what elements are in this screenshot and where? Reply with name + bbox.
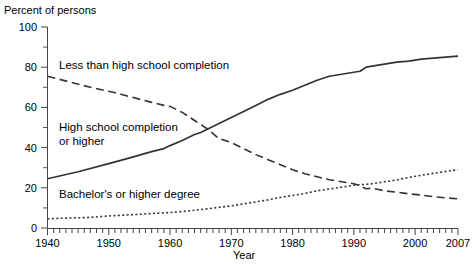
- education-attainment-line-chart: Percent of persons 020406080100 19401950…: [0, 0, 474, 265]
- x-axis-title: Year: [233, 249, 255, 262]
- x-tick-label: 2000: [403, 237, 427, 249]
- series-label-bachelors-or-higher: Bachelor's or higher degree: [59, 187, 200, 201]
- y-tick-label: 20: [25, 182, 37, 194]
- x-tick-label: 1950: [97, 237, 121, 249]
- x-tick-label: 1970: [219, 237, 243, 249]
- x-tick-label: 2007: [446, 237, 470, 249]
- x-tick-label: 1940: [35, 237, 59, 249]
- x-axis-ticks: [48, 229, 459, 236]
- y-tick-label: 0: [31, 222, 37, 234]
- y-tick-label: 60: [25, 101, 37, 113]
- series-label-high-school-completion: High school completion or higher: [59, 120, 178, 148]
- series-line-solid: [48, 56, 459, 179]
- x-tick-label: 1980: [280, 237, 304, 249]
- y-axis-tick-labels: 020406080100: [19, 21, 37, 234]
- y-tick-label: 40: [25, 142, 37, 154]
- y-tick-label: 100: [19, 21, 37, 33]
- y-axis-ticks: [41, 27, 48, 228]
- x-axis-tick-labels: 19401950196019701980199020002007: [35, 237, 470, 249]
- x-tick-label: 1960: [158, 237, 182, 249]
- x-tick-label: 1990: [342, 237, 366, 249]
- series-label-less-than-high-school: Less than high school completion: [59, 58, 229, 72]
- y-tick-label: 80: [25, 61, 37, 73]
